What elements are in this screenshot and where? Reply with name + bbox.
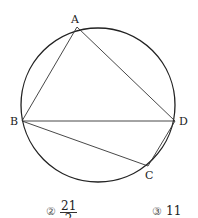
choice-marker: ③ — [152, 205, 162, 218]
choice-value: 11 — [166, 204, 181, 218]
choice-3: ③ 11 — [152, 200, 181, 218]
fraction: 21 2 — [60, 200, 77, 218]
choice-2: ② 21 2 — [46, 200, 77, 218]
choice-marker: ② — [46, 205, 56, 218]
answer-choices: ② 21 2 ③ 11 — [0, 0, 198, 218]
fraction-denominator: 2 — [65, 213, 73, 218]
